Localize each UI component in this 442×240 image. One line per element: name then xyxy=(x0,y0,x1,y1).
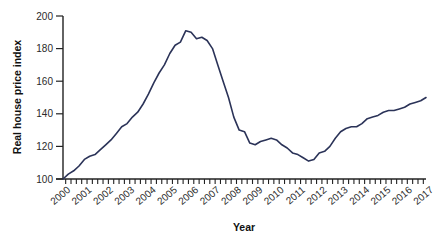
x-axis-title: Year xyxy=(233,221,255,233)
y-tick-label: 140 xyxy=(36,108,53,119)
x-tick-label: 2009 xyxy=(240,184,264,207)
y-axis-title: Real house price index xyxy=(11,40,23,155)
x-tick-label: 2014 xyxy=(347,184,371,207)
x-tick-label: 2001 xyxy=(70,184,94,207)
y-tick-label: 120 xyxy=(36,141,53,152)
price-index-line xyxy=(63,31,426,179)
x-axis: 2000200120022003200420052006200720082009… xyxy=(48,179,435,207)
x-tick-label: 2004 xyxy=(134,184,158,207)
x-tick-label: 2016 xyxy=(390,184,414,207)
x-tick-label: 2010 xyxy=(262,184,286,207)
y-tick-label: 160 xyxy=(36,76,53,87)
x-tick-label: 2007 xyxy=(198,184,222,207)
x-tick-label: 2000 xyxy=(48,184,72,207)
x-tick-label: 2005 xyxy=(155,184,179,207)
house-price-chart: 100120140160180200 200020012002200320042… xyxy=(0,0,442,240)
x-tick-label: 2015 xyxy=(368,184,392,207)
y-axis: 100120140160180200 xyxy=(36,11,63,185)
x-tick-label: 2003 xyxy=(112,184,136,207)
x-tick-label: 2012 xyxy=(304,184,328,207)
y-tick-label: 180 xyxy=(36,43,53,54)
y-tick-label: 100 xyxy=(36,174,53,185)
y-tick-label: 200 xyxy=(36,11,53,22)
x-tick-label: 2013 xyxy=(326,184,350,207)
x-tick-label: 2008 xyxy=(219,184,243,207)
x-tick-label: 2002 xyxy=(91,184,115,207)
x-tick-label: 2011 xyxy=(284,184,308,207)
x-tick-label: 2006 xyxy=(176,184,200,207)
x-tick-label: 2017 xyxy=(411,184,435,207)
